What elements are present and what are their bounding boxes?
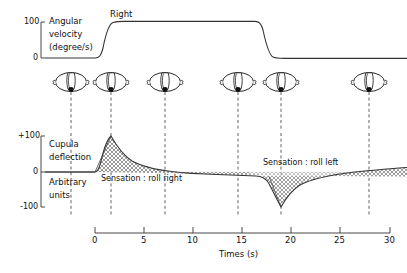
x-tick-label-30: 30 [384, 236, 395, 246]
cupula-deflection-label-line2: deflection [49, 153, 91, 163]
head-icon-stopped [263, 73, 299, 92]
top-y-axis [41, 22, 45, 58]
top-axis-tick-0: 0 [33, 53, 38, 62]
diagram-canvas [0, 0, 407, 273]
head-icon-upright-pre [53, 73, 89, 92]
x-tick-label-10: 10 [187, 236, 198, 246]
arbitrary-units-label-line1: Arbitrary [49, 178, 87, 188]
right-direction-label: Right [110, 10, 132, 20]
x-tick-label-5: 5 [141, 236, 146, 246]
cupula-deflection-label-line1: Cupula [49, 140, 79, 150]
vestibular-cupula-diagram: 100 0 Angular velocity (degree/s) Right … [0, 0, 407, 273]
head-icon-upright-post [351, 73, 387, 92]
x-axis-title: Times (s) [219, 250, 258, 260]
bottom-axis-tick-plus100: +100 [18, 131, 40, 140]
x-tick-label-20: 20 [285, 236, 296, 246]
angular-velocity-curve [45, 21, 407, 58]
arbitrary-units-label-line2: units [49, 191, 70, 201]
bottom-axis-tick-0: 0 [33, 167, 38, 176]
angular-velocity-label-line3: (degree/s) [49, 43, 93, 53]
head-icon-rolling-2 [147, 73, 183, 92]
x-tick-label-0: 0 [92, 236, 97, 246]
head-icons-row [53, 73, 387, 92]
angular-velocity-label-line1: Angular [49, 17, 82, 27]
top-axis-tick-100: 100 [24, 17, 39, 26]
x-axis [95, 227, 390, 233]
head-icon-rolling-3 [220, 73, 256, 92]
bottom-axis-tick-minus100: -100 [20, 202, 38, 211]
x-tick-label-15: 15 [236, 236, 247, 246]
angular-velocity-label-line2: velocity [49, 30, 82, 40]
sensation-roll-left-label: Sensation : roll left [263, 158, 338, 167]
x-tick-label-25: 25 [334, 236, 345, 246]
head-icon-rolling-1 [93, 73, 129, 92]
sensation-roll-right-label: Sensation : roll right [101, 174, 182, 183]
